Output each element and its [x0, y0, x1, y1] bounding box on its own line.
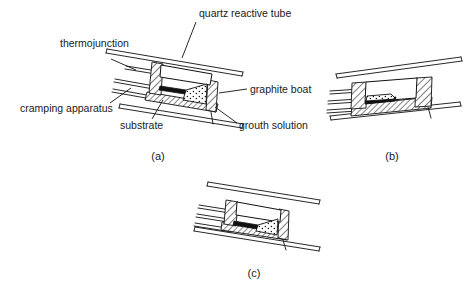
label-grouth-solution: grouth solution [215, 107, 308, 131]
lpe-apparatus-figure: (a) [0, 0, 466, 296]
panel-caption-a: (a) [151, 150, 164, 162]
label-cramping-apparatus: cramping apparatus [20, 88, 131, 114]
panel-c: (c) [194, 182, 320, 279]
figure-root: (a) [0, 0, 466, 296]
panel-caption-c: (c) [248, 267, 261, 279]
quartz-tube-upper-wall-c [207, 182, 320, 204]
graphite-boat-left-pillar-b [351, 82, 367, 109]
label-text-substrate: substrate [120, 119, 163, 131]
quartz-tube-upper-wall-b [336, 57, 462, 78]
label-text-graphite-boat: graphite boat [250, 83, 311, 95]
graphite-boat-chamber-a [160, 65, 212, 85]
panel-b: (b) [327, 57, 462, 162]
substrate-slab-a [159, 86, 186, 94]
label-text-thermojunction: thermojunction [60, 37, 129, 49]
label-text-cramping-apparatus: cramping apparatus [20, 102, 113, 114]
graphite-boat-right-pillar-b [415, 77, 432, 107]
graphite-boat-chamber-c [236, 202, 281, 222]
label-graphite-boat: graphite boat [219, 83, 311, 95]
panel-caption-b: (b) [385, 150, 398, 162]
label-text-grouth-solution: grouth solution [239, 119, 308, 131]
label-quartz-reactive-tube: quartz reactive tube [182, 7, 291, 58]
label-thermojunction: thermojunction [60, 37, 136, 70]
growth-solution-pool-a [183, 84, 207, 104]
label-text-quartz-reactive-tube: quartz reactive tube [199, 7, 291, 19]
